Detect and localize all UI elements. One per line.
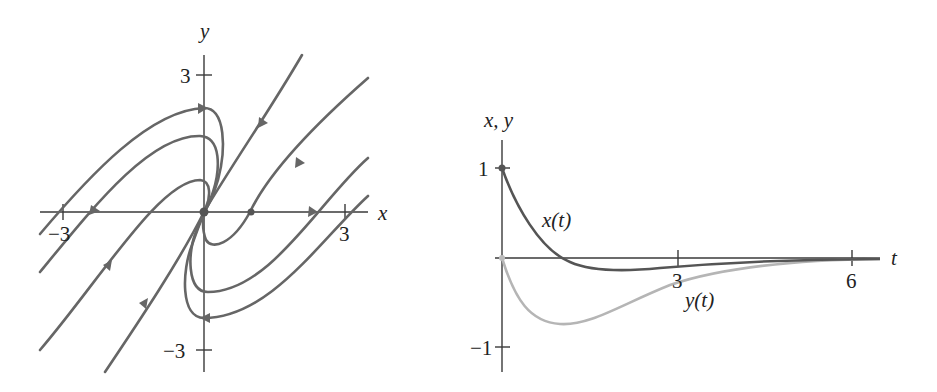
x-t-label: x(t) (541, 208, 571, 232)
y-axis-label: y (198, 19, 210, 43)
marked-point (248, 209, 255, 216)
y-t-label: y(t) (683, 288, 714, 312)
t-tick-label-3: 3 (672, 269, 683, 293)
figure: y x 3 −3 −3 3 x, y t 1 −1 3 6 x(t) y(t) (0, 0, 937, 392)
initial-point-x (499, 165, 506, 172)
y-tick-label-3: 3 (180, 64, 191, 88)
arrow-icon (198, 103, 208, 114)
arrow-icon (200, 313, 210, 323)
arrow-icon (295, 157, 305, 168)
initial-point-y (499, 255, 505, 261)
y-tick-label-1: 1 (478, 157, 489, 181)
trajectory-upper-4 (105, 212, 204, 372)
origin-point (200, 208, 209, 217)
x-tick-label-neg3: −3 (48, 222, 70, 246)
component-plot: x, y t 1 −1 3 6 x(t) y(t) (470, 108, 898, 372)
trajectory-lower-4 (204, 55, 302, 212)
xy-axis-label: x, y (483, 108, 514, 132)
t-tick-label-6: 6 (846, 269, 857, 293)
x-axis-label: x (377, 201, 388, 225)
y-tick-label-neg3: −3 (163, 339, 185, 363)
t-axis-label: t (891, 246, 898, 270)
x-tick-label-3: 3 (339, 222, 350, 246)
phase-portrait: y x 3 −3 −3 3 (40, 19, 388, 372)
y-tick-label-neg1: −1 (470, 336, 492, 360)
